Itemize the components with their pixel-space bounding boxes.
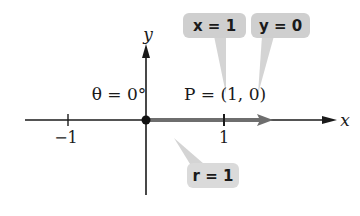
theta-label: θ = 0° (92, 84, 147, 104)
y-axis-label: y (142, 24, 153, 44)
polar-coordinate-diagram: x = 1 y = 0 r = 1 y x −1 1 θ = 0° P = (1… (0, 0, 360, 216)
x-axis-label: x (340, 110, 350, 130)
callout-r: r = 1 (187, 163, 239, 188)
callout-x: x = 1 (183, 13, 246, 38)
origin-point (142, 116, 151, 125)
callout-y-text: y = 0 (259, 17, 302, 35)
point-p-label: P = (1, 0) (184, 84, 266, 104)
x-axis-arrowhead-icon (322, 116, 337, 124)
y-axis-arrowhead-icon (142, 44, 150, 58)
callout-x-text: x = 1 (193, 17, 236, 35)
tick-label-1: 1 (219, 128, 229, 147)
callout-r-text: r = 1 (193, 167, 234, 185)
callout-r-tail (174, 138, 204, 164)
tick-label-neg1: −1 (54, 128, 78, 147)
callout-y: y = 0 (251, 13, 310, 38)
